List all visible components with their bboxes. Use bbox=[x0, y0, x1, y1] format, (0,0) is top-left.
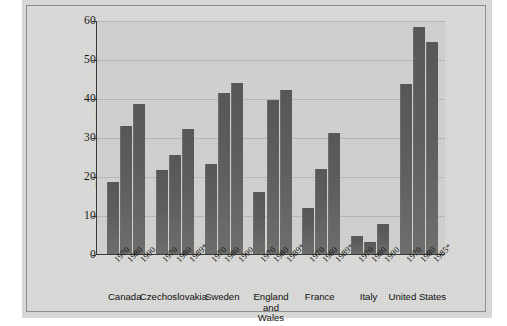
chart-figure: Divorces per 100 marriages 0102030405060… bbox=[0, 0, 507, 326]
country-label-line: Wales bbox=[226, 313, 316, 324]
bar bbox=[315, 169, 327, 255]
y-tick-label: 30 bbox=[62, 131, 96, 143]
y-tick-label: 20 bbox=[62, 170, 96, 182]
bar bbox=[156, 170, 168, 255]
gridline bbox=[97, 21, 445, 22]
y-axis: Divorces per 100 marriages 0102030405060 bbox=[52, 21, 96, 255]
bar bbox=[231, 83, 243, 255]
bar bbox=[218, 93, 230, 255]
y-tick-label: 10 bbox=[62, 209, 96, 221]
bar bbox=[107, 182, 119, 255]
y-tick-label: 40 bbox=[62, 92, 96, 104]
bar bbox=[280, 90, 292, 255]
bar bbox=[400, 84, 412, 255]
gridline bbox=[97, 60, 445, 61]
plot-area bbox=[96, 21, 445, 255]
y-tick-label: 0 bbox=[62, 248, 96, 260]
bar bbox=[205, 164, 217, 255]
bar bbox=[253, 192, 265, 255]
country-label-line: United States bbox=[372, 292, 462, 303]
bar bbox=[133, 104, 145, 255]
bar bbox=[413, 27, 425, 255]
x-axis-group-label: United States bbox=[372, 292, 462, 303]
bar bbox=[426, 42, 438, 255]
bar bbox=[267, 100, 279, 255]
bar bbox=[169, 155, 181, 255]
bar bbox=[328, 133, 340, 255]
y-tick-label: 50 bbox=[62, 53, 96, 65]
bar bbox=[182, 129, 194, 255]
x-axis-labels: 197019801990Canada197019801989*Czechoslo… bbox=[96, 256, 445, 318]
bar bbox=[120, 126, 132, 255]
y-tick-label: 60 bbox=[62, 14, 96, 26]
